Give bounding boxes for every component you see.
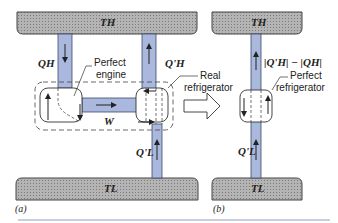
perfect-refrigerator-label-1: Perfect [290, 70, 322, 81]
cold-reservoir-a [15, 80, 21, 86]
diagram-canvas [0, 0, 338, 223]
perfect-refrigerator-box [240, 90, 272, 122]
caption-b: (b) [213, 203, 225, 214]
cold-reservoir-b-label: TL [251, 183, 264, 194]
real-refrigerator-box [136, 88, 168, 122]
cold-reservoir-a-label: TL [104, 183, 117, 194]
hot-reservoir-b-label: TH [251, 17, 266, 28]
work-label: W [104, 116, 114, 127]
ql-prime-label-b: Q'L [238, 146, 256, 157]
hot-reservoir-a-label: TH [100, 17, 115, 28]
ql-prime-label-a: Q'L [136, 147, 154, 158]
net-heat-label: |Q'H| − |QH| [264, 57, 322, 68]
real-refrigerator-label-2: refrigerator [184, 82, 233, 93]
real-refrigerator-label-1: Real [200, 70, 221, 81]
qh-label: QH [38, 58, 55, 69]
perfect-engine-label-2: engine [96, 69, 126, 80]
caption-a: (a) [15, 203, 27, 214]
transform-arrow [184, 93, 220, 119]
qh-prime-label: Q'H [165, 58, 185, 69]
perfect-engine-box [40, 88, 82, 122]
perfect-engine-label-1: Perfect [94, 57, 126, 68]
perfect-refrigerator-label-2: refrigerator [276, 82, 325, 93]
